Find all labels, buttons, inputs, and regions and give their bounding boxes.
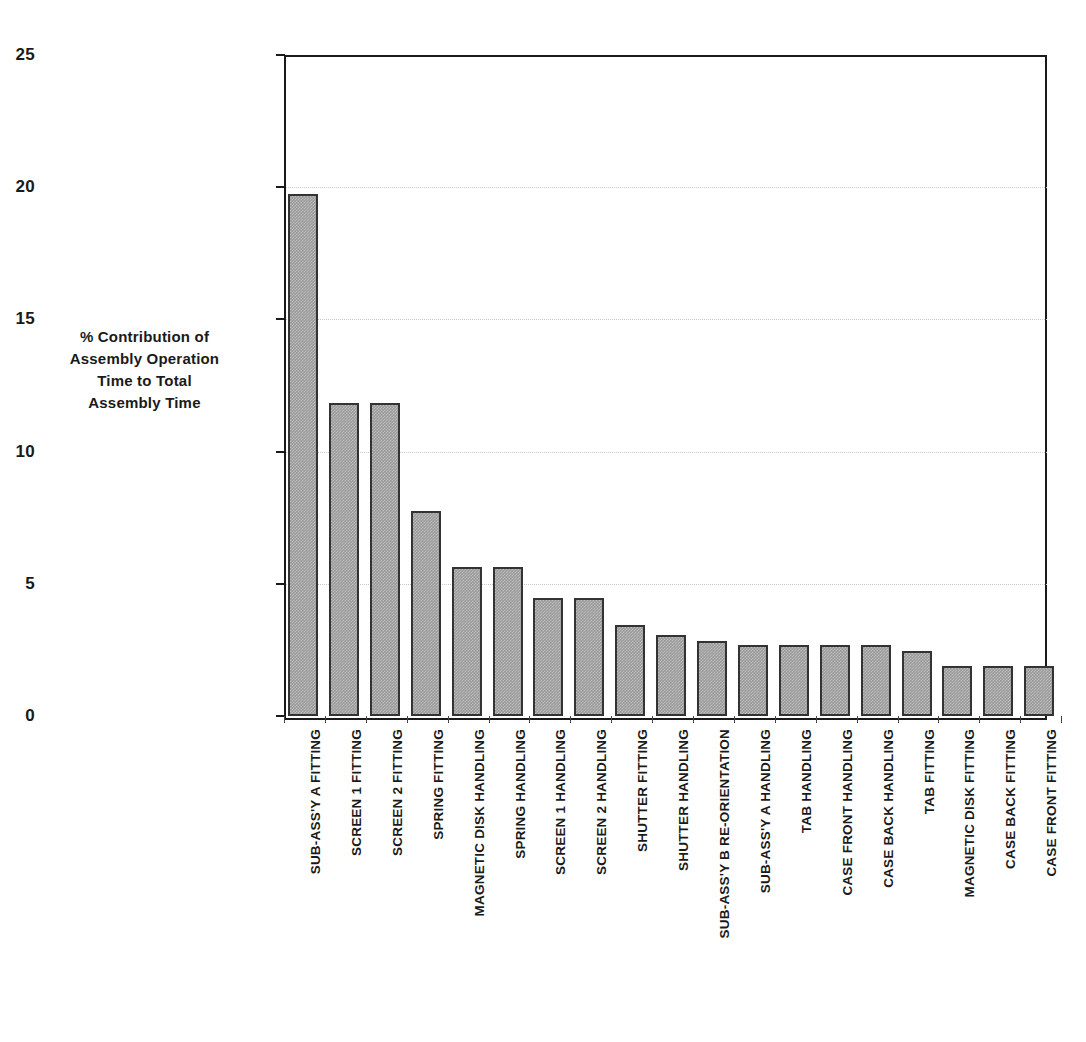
x-axis-category-label: CASE FRONT HANDLING (841, 729, 855, 979)
bar (983, 666, 1013, 716)
y-tick-label-5: 5 (0, 574, 35, 594)
x-axis-category-label: SCREEN 2 HANDLING (595, 729, 609, 979)
bar (861, 645, 891, 716)
x-tick-mark (775, 716, 776, 723)
x-axis-category-label: CASE FRONT FITTING (1045, 729, 1059, 979)
x-tick-mark (857, 716, 858, 723)
bar (452, 567, 482, 716)
x-tick-mark (938, 716, 939, 723)
x-axis-category-label: SHUTTER FITTING (636, 729, 650, 979)
y-axis-title-line-4: Assembly Time (52, 392, 237, 414)
x-axis-category-label: SCREEN 2 FITTING (391, 729, 405, 979)
y-tick-label-0: 0 (0, 706, 35, 726)
bar (902, 651, 932, 716)
bar (574, 598, 604, 716)
x-axis-category-label: MAGNETIC DISK HANDLING (473, 729, 487, 979)
y-tick-label-25: 25 (0, 45, 35, 65)
bar (820, 645, 850, 716)
y-axis-title-line-3: Time to Total (52, 370, 237, 392)
x-tick-mark (448, 716, 449, 723)
x-axis-category-label: SUB-ASS'Y A HANDLING (759, 729, 773, 979)
x-axis-category-label: SCREEN 1 HANDLING (554, 729, 568, 979)
y-tick-label-20: 20 (0, 177, 35, 197)
x-tick-mark (816, 716, 817, 723)
bar (329, 403, 359, 716)
x-tick-mark (652, 716, 653, 723)
bar (533, 598, 563, 716)
x-tick-mark (570, 716, 571, 723)
x-axis-category-label: CASE BACK FITTING (1004, 729, 1018, 979)
bar (370, 403, 400, 716)
bar (697, 641, 727, 716)
x-tick-mark (284, 716, 285, 723)
bar (656, 635, 686, 716)
x-axis-category-label: SUB-ASS'Y A FITTING (309, 729, 323, 979)
bar-chart-figure: % Contribution of Assembly Operation Tim… (0, 0, 1086, 1042)
bar (493, 567, 523, 716)
bar (288, 194, 318, 716)
x-tick-mark (366, 716, 367, 723)
y-tick-label-10: 10 (0, 442, 35, 462)
x-axis-category-label: TAB FITTING (923, 729, 937, 979)
bar (942, 666, 972, 716)
x-tick-mark (611, 716, 612, 723)
x-axis-category-label: SUB-ASS'Y B RE-ORIENTATION (718, 729, 732, 979)
y-tick-label-15: 15 (0, 309, 35, 329)
x-axis-category-label: CASE BACK HANDLING (882, 729, 896, 979)
y-axis-title-line-2: Assembly Operation (52, 348, 237, 370)
bar (738, 645, 768, 716)
bar (411, 511, 441, 716)
x-tick-mark (489, 716, 490, 723)
bar (779, 645, 809, 716)
bar (615, 625, 645, 716)
x-tick-mark (693, 716, 694, 723)
x-axis-category-label: SPRING FITTING (432, 729, 446, 979)
y-axis-title: % Contribution of Assembly Operation Tim… (52, 326, 237, 414)
x-tick-mark (979, 716, 980, 723)
x-axis-category-label: SPRING HANDLING (514, 729, 528, 979)
x-axis-category-label: SHUTTER HANDLING (677, 729, 691, 979)
x-tick-mark (898, 716, 899, 723)
x-tick-mark (407, 716, 408, 723)
bar (1024, 666, 1054, 716)
x-tick-mark (1061, 716, 1062, 723)
x-axis-category-label: TAB HANDLING (800, 729, 814, 979)
x-tick-mark (1020, 716, 1021, 723)
x-tick-mark (529, 716, 530, 723)
x-tick-mark (325, 716, 326, 723)
y-axis-title-line-1: % Contribution of (52, 326, 237, 348)
x-axis-category-label: MAGNETIC DISK FITTING (963, 729, 977, 979)
x-axis-category-label: SCREEN 1 FITTING (350, 729, 364, 979)
bar-series (284, 55, 1047, 718)
x-tick-mark (734, 716, 735, 723)
